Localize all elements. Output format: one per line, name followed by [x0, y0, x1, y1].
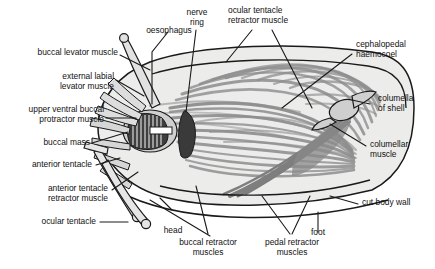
label-columella-line2: of shell [378, 104, 434, 114]
leader-cut-body-wall [330, 196, 358, 204]
anatomy-figure: oesophagus nerve ring ocular tentacle re… [0, 0, 435, 269]
label-external-labial-line2: levator muscle [10, 82, 114, 92]
label-buccal-mass: buccal mass [6, 138, 90, 148]
label-ocular-tentacle: ocular tentacle [4, 217, 96, 227]
label-pedal-retractor-line2: muscles [242, 248, 342, 258]
label-cephalopedal-line2: haemocoel [356, 50, 434, 60]
label-ocular-tentacle-retractor-line2: retractor muscle [228, 16, 332, 26]
label-anterior-tentacle: anterior tentacle [0, 160, 92, 170]
label-cut-body-wall: cut body wall [362, 198, 434, 208]
label-anterior-tentacle-retractor-line2: retractor muscle [6, 194, 108, 204]
label-buccal-levator: buccal levator muscle [4, 48, 118, 58]
label-upper-ventral-line2: protractor muscle [0, 115, 104, 125]
label-nerve-ring-line2: ring [176, 18, 218, 28]
label-head: head [156, 226, 190, 236]
label-columellar-muscle-line2: muscle [370, 150, 432, 160]
ocular-tentacle-tip [141, 219, 150, 228]
